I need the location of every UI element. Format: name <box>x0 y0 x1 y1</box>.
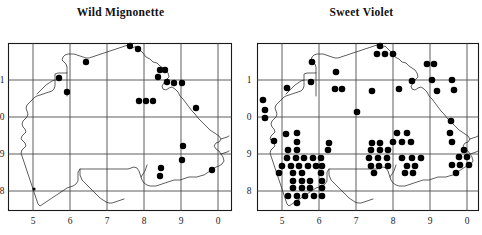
svg-text:7: 7 <box>105 216 110 226</box>
svg-text:1: 1 <box>0 75 5 85</box>
svg-text:7: 7 <box>354 216 359 226</box>
map-frame <box>9 44 232 211</box>
svg-text:9: 9 <box>428 216 433 226</box>
y-axis-ticks: 1 0 9 8 <box>247 75 252 196</box>
svg-text:8: 8 <box>247 186 252 196</box>
x-axis-ticks: 5 6 7 8 9 0 <box>31 216 221 226</box>
panel-sweet-violet: Sweet Violet <box>241 0 482 235</box>
map-wild-mignonette: 5 6 7 8 9 0 1 0 9 8 <box>0 0 241 235</box>
svg-text:9: 9 <box>247 149 252 159</box>
svg-text:1: 1 <box>247 75 252 85</box>
svg-text:0: 0 <box>465 216 470 226</box>
svg-text:5: 5 <box>280 216 285 226</box>
svg-text:9: 9 <box>179 216 184 226</box>
record-dots <box>260 43 473 207</box>
x-axis-ticks: 5 6 7 8 9 0 <box>280 216 470 226</box>
panel-wild-mignonette: Wild Mignonette <box>0 0 241 235</box>
grid-horizontal <box>9 80 232 191</box>
distribution-maps-figure: Wild Mignonette <box>0 0 482 235</box>
svg-text:0: 0 <box>216 216 221 226</box>
map-frame <box>258 44 479 211</box>
svg-text:0: 0 <box>247 112 252 122</box>
y-axis-ticks: 1 0 9 8 <box>0 75 5 196</box>
svg-text:9: 9 <box>0 149 5 159</box>
svg-text:8: 8 <box>0 186 5 196</box>
map-sweet-violet: 5 6 7 8 9 0 1 0 9 8 <box>241 0 482 235</box>
coastline-outline <box>21 45 229 206</box>
svg-text:5: 5 <box>31 216 36 226</box>
grid-vertical <box>33 44 218 211</box>
svg-text:8: 8 <box>142 216 147 226</box>
svg-text:0: 0 <box>0 112 5 122</box>
svg-text:6: 6 <box>68 216 73 226</box>
svg-text:8: 8 <box>391 216 396 226</box>
svg-text:6: 6 <box>317 216 322 226</box>
